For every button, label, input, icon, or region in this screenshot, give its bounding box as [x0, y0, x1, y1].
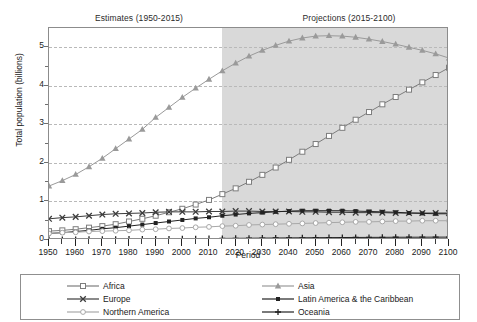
data-point-filled-square — [407, 211, 411, 215]
legend-label: Africa — [100, 281, 125, 291]
legend-item[interactable]: Northern America — [66, 305, 169, 318]
data-point-open-square — [313, 142, 318, 147]
x-tick-mark — [368, 239, 369, 246]
data-point-open-circle — [287, 221, 292, 226]
data-point-filled-square — [194, 216, 198, 220]
x-tick-mark — [435, 239, 436, 244]
x-tick-mark — [328, 239, 329, 244]
data-point-triangle — [192, 85, 198, 91]
y-tick-mark — [44, 239, 48, 240]
legend-label: Northern America — [100, 307, 169, 317]
data-point-open-square — [367, 110, 372, 115]
data-point-open-circle — [273, 222, 278, 227]
data-point-open-square — [140, 216, 145, 221]
data-point-open-circle — [113, 228, 118, 233]
data-point-filled-square — [247, 211, 251, 215]
data-point-filled-square — [394, 210, 398, 214]
x-tick-mark — [128, 239, 129, 246]
x-tick-mark — [168, 239, 169, 244]
data-point-open-circle — [380, 219, 385, 224]
data-point-open-circle — [207, 224, 212, 229]
y-tick-mark-minor — [45, 220, 48, 221]
y-tick-label: 5 — [18, 40, 44, 50]
data-point-triangle — [326, 32, 332, 38]
data-point-open-square — [327, 133, 332, 138]
x-tick-mark — [261, 239, 262, 246]
data-point-open-square — [353, 117, 358, 122]
legend-item[interactable]: Africa — [66, 279, 125, 292]
projections-header: Projections (2015-2100) — [249, 13, 449, 23]
data-point-open-square — [127, 219, 132, 224]
x-tick-mark — [395, 239, 396, 246]
data-point-filled-square — [207, 215, 211, 219]
data-point-triangle — [152, 114, 158, 120]
legend-marker-plus-icon — [261, 306, 295, 318]
x-tick-mark — [408, 239, 409, 244]
data-point-triangle — [126, 136, 132, 142]
x-tick-mark — [195, 239, 196, 244]
data-point-open-square — [273, 165, 278, 170]
y-tick-mark — [44, 200, 48, 201]
data-point-filled-square — [220, 214, 224, 218]
data-point-open-circle — [60, 230, 65, 235]
data-point-open-circle — [247, 223, 252, 228]
data-point-open-circle — [340, 220, 345, 225]
y-tick-mark — [44, 162, 48, 163]
x-tick-mark — [155, 239, 156, 246]
y-tick-mark — [44, 123, 48, 124]
data-point-triangle — [232, 60, 238, 66]
legend-item[interactable]: Oceania — [261, 305, 330, 318]
y-tick-mark-minor — [45, 104, 48, 105]
data-point-triangle — [219, 67, 225, 73]
data-point-open-circle — [167, 226, 172, 231]
data-point-filled-square — [260, 211, 264, 215]
data-point-open-square — [207, 197, 212, 202]
data-point-open-square — [300, 149, 305, 154]
data-point-open-circle — [300, 221, 305, 226]
legend-item[interactable]: Asia — [261, 279, 315, 292]
data-point-filled-square — [154, 221, 158, 225]
data-point-triangle — [112, 145, 118, 151]
data-point-open-square — [420, 80, 425, 85]
data-point-filled-square — [367, 209, 371, 213]
data-point-triangle — [179, 94, 185, 100]
legend-item[interactable]: Europe — [66, 292, 130, 305]
y-tick-mark-minor — [45, 181, 48, 182]
y-tick-label: 4 — [18, 79, 44, 89]
x-tick-mark — [275, 239, 276, 244]
legend-marker-x-cross-icon — [66, 293, 100, 305]
data-point-filled-square — [180, 218, 184, 222]
x-tick-mark — [208, 239, 209, 246]
x-tick-mark — [61, 239, 62, 244]
legend-label: Asia — [295, 281, 315, 291]
data-point-filled-square — [327, 209, 331, 213]
chart-legend: AfricaAsiaEuropeLatin America & the Cari… — [20, 274, 460, 320]
data-point-triangle — [49, 183, 52, 189]
data-point-open-square — [407, 87, 412, 92]
series-africa — [49, 65, 448, 233]
data-point-open-square — [447, 65, 449, 70]
x-tick-mark — [315, 239, 316, 246]
data-point-triangle — [206, 76, 212, 82]
y-axis-labels: 012345 — [12, 27, 44, 239]
data-point-open-square — [340, 125, 345, 130]
data-point-filled-square — [234, 213, 238, 217]
data-point-open-square — [433, 73, 438, 78]
series-northern-america — [49, 218, 448, 236]
data-point-open-circle — [260, 222, 265, 227]
x-tick-mark — [421, 239, 422, 246]
data-point-open-circle — [180, 226, 185, 231]
data-point-open-circle — [233, 223, 238, 228]
data-point-filled-square — [274, 210, 278, 214]
data-point-open-circle — [81, 309, 86, 314]
x-tick-mark — [288, 239, 289, 246]
data-point-triangle — [99, 155, 105, 161]
legend-item[interactable]: Latin America & the Caribbean — [261, 292, 413, 305]
y-tick-label: 2 — [18, 156, 44, 166]
data-point-open-circle — [327, 220, 332, 225]
estimates-header: Estimates (1950-2015) — [59, 13, 219, 23]
x-tick-mark — [235, 239, 236, 246]
data-point-open-circle — [127, 228, 132, 233]
data-point-open-circle — [193, 225, 198, 230]
data-point-filled-square — [447, 212, 448, 216]
